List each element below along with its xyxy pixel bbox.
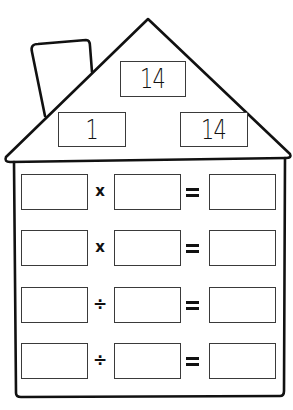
chimney bbox=[32, 40, 92, 116]
row3-right-box[interactable] bbox=[114, 287, 181, 323]
divide-sign: ÷ bbox=[90, 296, 110, 313]
row1-right-box[interactable] bbox=[114, 174, 181, 210]
top-number: 14 bbox=[141, 66, 166, 92]
row1-left-box[interactable] bbox=[21, 174, 88, 210]
row3-result-box[interactable] bbox=[209, 287, 276, 323]
row2-left-box[interactable] bbox=[21, 230, 88, 266]
roof-top-number-box[interactable]: 14 bbox=[120, 61, 186, 97]
roof-right-number-box[interactable]: 14 bbox=[180, 112, 248, 147]
row4-result-box[interactable] bbox=[209, 343, 276, 379]
row2-right-box[interactable] bbox=[114, 230, 181, 266]
left-number: 1 bbox=[86, 117, 98, 143]
row3-left-box[interactable] bbox=[21, 287, 88, 323]
right-number: 14 bbox=[202, 117, 227, 143]
roof-left-number-box[interactable]: 1 bbox=[58, 112, 126, 147]
row2-result-box[interactable] bbox=[209, 230, 276, 266]
multiply-sign: x bbox=[90, 240, 110, 255]
divide-sign: ÷ bbox=[90, 352, 110, 369]
row4-left-box[interactable] bbox=[21, 343, 88, 379]
multiply-sign: x bbox=[90, 184, 110, 199]
row1-result-box[interactable] bbox=[209, 174, 276, 210]
row4-right-box[interactable] bbox=[114, 343, 181, 379]
